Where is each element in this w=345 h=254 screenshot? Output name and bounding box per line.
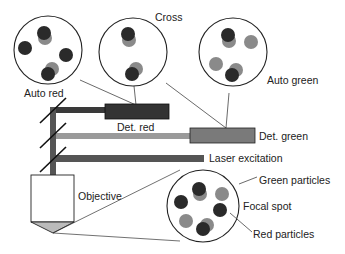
cross-circle [99,18,167,86]
label-auto-red: Auto red [24,87,64,99]
focal-cone-lower [53,233,180,241]
vertical-beam [50,107,56,185]
pointer-green-particles [239,177,257,184]
green-emission-beam [56,133,191,139]
det-green-box [190,128,255,143]
objective-lens [31,222,74,233]
label-red-particles: Red particles [253,228,314,240]
label-laser-excitation: Laser excitation [209,152,283,164]
label-det-red: Det. red [117,121,155,133]
label-det-green: Det. green [259,130,308,142]
label-cross: Cross [155,11,182,23]
label-objective: Objective [78,190,122,202]
connector-cross-red [134,86,136,105]
label-focal-spot: Focal spot [243,200,292,212]
laser-excitation-beam [56,155,204,162]
objective-body [31,175,74,222]
det-red-box [105,104,169,119]
auto-green-circle [199,18,267,86]
connector-cross-green [166,83,226,128]
red-emission-beam [50,107,106,113]
focal-spot-circle [167,170,239,242]
label-auto-green: Auto green [267,74,319,86]
label-green-particles: Green particles [259,174,330,186]
confocal-detection-diagram: Cross Auto red Auto green Det. red Det. … [0,0,345,254]
connector-auto-green [226,93,229,128]
auto-red-circle [14,16,82,84]
